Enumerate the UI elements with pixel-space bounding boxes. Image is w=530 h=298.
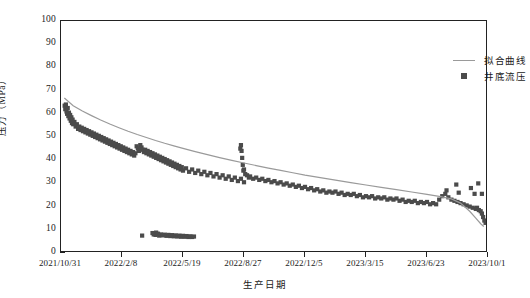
scatter-point (66, 106, 70, 110)
y-tick-mark (60, 252, 65, 253)
legend-item-bottomhole-pressure: 井底流压 (453, 68, 526, 84)
plot-frame: 拟合曲线 井底流压 (60, 20, 487, 252)
plot-area (61, 21, 486, 251)
x-axis-label: 生产日期 (0, 277, 530, 291)
scatter-point (140, 234, 144, 238)
x-tick-mark (121, 252, 122, 257)
legend-item-fitted-curve: 拟合曲线 (453, 52, 526, 68)
legend-line-swatch (453, 60, 475, 61)
legend-square-swatch (453, 73, 475, 79)
x-tick-label: 2021/10/31 (39, 258, 81, 268)
x-tick-mark (426, 252, 427, 257)
scatter-point (444, 188, 448, 192)
x-tick-label: 2022/5/19 (163, 258, 200, 268)
y-tick-label: 50 (16, 131, 56, 141)
x-tick-mark (304, 252, 305, 257)
y-tick-label: 80 (16, 62, 56, 72)
scatter-point (240, 156, 244, 160)
y-axis-label: 压力（MPa） (0, 75, 8, 136)
legend-label-fitted-curve: 拟合曲线 (484, 53, 526, 67)
y-tick-label: 10 (16, 224, 56, 234)
chart-figure: 压力（MPa） 0102030405060708090100 拟合曲线 井底流压… (0, 0, 530, 298)
x-tick-label: 2023/6/23 (407, 258, 444, 268)
x-tick-mark (487, 252, 488, 257)
series-fitted-curve-line (64, 98, 483, 227)
scatter-point (472, 192, 476, 196)
y-tick-label: 100 (16, 15, 56, 25)
y-tick-label: 40 (16, 154, 56, 164)
scatter-point (434, 202, 438, 206)
scatter-point (454, 182, 458, 186)
x-tick-label: 2022/2/8 (105, 258, 138, 268)
legend-label-bottomhole-pressure: 井底流压 (484, 69, 526, 83)
x-tick-mark (365, 252, 366, 257)
scatter-point (133, 151, 137, 155)
x-tick-mark (243, 252, 244, 257)
x-tick-label: 2023/3/15 (346, 258, 383, 268)
x-tick-mark (182, 252, 183, 257)
y-tick-label: 70 (16, 85, 56, 95)
scatter-point (483, 221, 486, 225)
scatter-point (476, 181, 480, 185)
series-bottomhole-pressure-points (63, 102, 486, 239)
y-tick-label: 30 (16, 178, 56, 188)
x-tick-label: 2023/10/1 (468, 258, 505, 268)
y-tick-label: 90 (16, 38, 56, 48)
y-tick-label: 20 (16, 201, 56, 211)
y-tick-label: 60 (16, 108, 56, 118)
scatter-point (192, 234, 196, 238)
series-canvas (61, 21, 486, 251)
scatter-point (242, 180, 246, 184)
x-tick-label: 2022/12/5 (285, 258, 322, 268)
scatter-point (238, 147, 242, 151)
scatter-point (480, 192, 484, 196)
scatter-point (469, 186, 473, 190)
scatter-point (242, 167, 246, 171)
legend: 拟合曲线 井底流压 (453, 52, 526, 84)
x-tick-label: 2022/8/27 (224, 258, 261, 268)
scatter-point (156, 232, 160, 236)
y-tick-label: 0 (16, 247, 56, 257)
scatter-point (457, 191, 461, 195)
